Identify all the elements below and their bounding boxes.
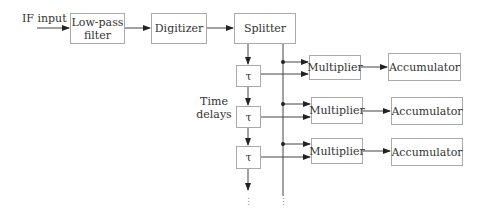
accumulator-block-1: Accumulator <box>388 53 461 81</box>
multiplier-block-2: Multiplier <box>311 97 363 124</box>
time-delays-label: Time delays <box>196 95 232 121</box>
multiplier-block-3: Multiplier <box>311 138 363 164</box>
delay-block-3: τ <box>236 146 261 169</box>
accumulator-block-3: Accumulator <box>391 138 463 166</box>
multiplier-block-1: Multiplier <box>309 55 361 80</box>
delay-block-1: τ <box>236 65 261 87</box>
if-input-label: IF input <box>22 12 67 25</box>
lowpass-filter-block: Low-pass filter <box>70 13 125 44</box>
delay-block-2: τ <box>236 106 261 128</box>
accumulator-block-2: Accumulator <box>391 97 463 125</box>
digitizer-block: Digitizer <box>151 13 207 44</box>
splitter-block: Splitter <box>234 13 296 44</box>
bus-continuation: ⋮ <box>279 196 287 209</box>
delay-continuation: ⋮ <box>244 196 252 209</box>
correlator-diagram: IF input Low-pass filter Digitizer Split… <box>0 0 483 217</box>
